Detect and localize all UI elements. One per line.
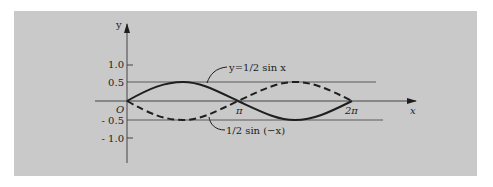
y-tick-label-1: 1.0 xyxy=(108,59,124,70)
y-axis-label: y xyxy=(115,19,122,30)
y-tick-label-0-5: 0.5 xyxy=(108,77,124,88)
annotation-dashed-curve: 1/2 sin (−x) xyxy=(226,125,285,136)
sine-chart: y x O 1.0 0.5 - 0.5 - 1.0 π 2π y=1/2 sin… xyxy=(0,0,493,187)
x-tick-label-2pi: 2π xyxy=(344,105,358,116)
y-tick-label-m1: - 1.0 xyxy=(102,133,124,144)
x-tick-label-pi: π xyxy=(235,105,243,116)
x-axis-label: x xyxy=(410,105,416,116)
annotation-solid-curve: y=1/2 sin x xyxy=(228,62,286,73)
y-tick-label-m0-5: - 0.5 xyxy=(102,115,124,126)
annot-leader-dashed xyxy=(209,117,225,130)
annot-leader-solid xyxy=(207,67,227,83)
origin-label: O xyxy=(116,104,124,115)
